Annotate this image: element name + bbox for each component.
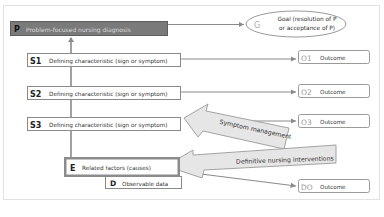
do-label: Outcome — [320, 184, 346, 190]
s3-label: Defining characteristic (sign or symptom… — [49, 122, 168, 129]
outcome-box-o3: O3 Outcome — [299, 115, 370, 128]
o2-label: Outcome — [320, 89, 346, 95]
nursing-diagnosis-diagram: Symptom management Definitive nursing in… — [0, 0, 384, 217]
goal-label-line1: Goal (resolution of P — [278, 16, 337, 22]
outcome-box-o1: O1 Outcome — [299, 51, 370, 64]
goal-code: G — [254, 21, 260, 30]
o1-label: Outcome — [320, 55, 346, 61]
data-label: Observable data — [122, 181, 168, 187]
s3-code: S3 — [30, 121, 41, 130]
s1-code: S1 — [30, 57, 42, 66]
characteristic-box-s2: S2 Defining characteristic (sign or symp… — [28, 87, 181, 100]
problem-code: P — [14, 25, 20, 34]
o1-code: O1 — [301, 54, 312, 63]
etiology-code: E — [70, 164, 75, 173]
characteristic-box-s1: S1 Defining characteristic (sign or symp… — [28, 54, 181, 67]
problem-label: Problem-focused nursing diagnosis — [26, 26, 131, 34]
outcome-box-o2: O2 Outcome — [299, 85, 370, 98]
o3-label: Outcome — [320, 119, 346, 125]
goal-label-line2: or acceptance of P) — [279, 25, 335, 32]
goal-ellipse: G Goal (resolution of P or acceptance of… — [246, 11, 346, 37]
outcome-box-do: DO Outcome — [299, 180, 370, 193]
o3-code: O3 — [301, 118, 312, 127]
characteristic-box-s3: S3 Defining characteristic (sign or symp… — [28, 118, 181, 131]
do-code: DO — [301, 183, 313, 192]
observable-data-box: D Observable data — [106, 177, 182, 189]
s1-label: Defining characteristic (sign or symptom… — [49, 58, 168, 65]
data-code: D — [110, 179, 116, 188]
etiology-box: E Related factors (causes) — [64, 157, 180, 177]
s2-label: Defining characteristic (sign or symptom… — [49, 91, 168, 98]
problem-box: P Problem-focused nursing diagnosis — [11, 22, 168, 36]
etiology-label: Related factors (causes) — [82, 165, 151, 171]
o2-code: O2 — [301, 88, 312, 97]
s2-code: S2 — [30, 90, 41, 99]
